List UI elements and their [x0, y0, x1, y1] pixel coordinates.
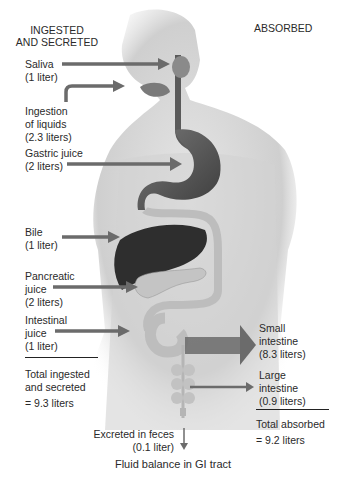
- ingestion-arrow: [66, 80, 125, 102]
- excreted-line2: (0.1 liter): [88, 441, 174, 454]
- label-amount: (1 liter): [25, 239, 58, 252]
- label-name: Saliva: [25, 58, 58, 71]
- label-bile: Bile (1 liter): [25, 226, 58, 252]
- total-absorbed: Total absorbed = 9.2 liters: [256, 418, 325, 447]
- label-name: Bile: [25, 226, 58, 239]
- label-name: Ingestion: [25, 105, 72, 118]
- total-ingested-value: = 9.3 liters: [25, 397, 90, 410]
- label-amount: (2 liters): [25, 160, 83, 173]
- ingested-divider: [25, 357, 98, 358]
- excreted-line1: Excreted in feces: [88, 428, 174, 441]
- label-name-line2: intestine: [259, 382, 306, 395]
- ingested-header: INGESTED AND SECRETED: [12, 24, 102, 48]
- label-amount: (1 liter): [25, 71, 58, 84]
- label-amount: (1 liter): [25, 340, 67, 353]
- label-amount: (8.3 liters): [259, 348, 306, 361]
- excreted-arrow: [180, 428, 188, 450]
- label-pancreatic-juice: Pancreatic juice (2 liters): [25, 270, 75, 309]
- bile-arrow: [62, 231, 120, 243]
- total-ingested-line2: and secreted: [25, 381, 90, 394]
- total-absorbed-line1: Total absorbed: [256, 418, 325, 431]
- label-name: Pancreatic: [25, 270, 75, 283]
- label-ingestion-of-liquids: Ingestion of liquids (2.3 liters): [25, 105, 72, 144]
- label-name-line2: intestine: [259, 335, 306, 348]
- label-large-intestine: Large intestine (0.9 liters): [259, 369, 306, 408]
- label-saliva: Saliva (1 liter): [25, 58, 58, 84]
- figure-caption: Fluid balance in GI tract: [0, 458, 346, 471]
- salivary-gland: [172, 56, 190, 78]
- absorbed-header: ABSORBED: [254, 22, 312, 34]
- label-name-line2: of liquids: [25, 118, 72, 131]
- label-intestinal-juice: Intestinal juice (1 liter): [25, 314, 67, 353]
- label-gastric-juice: Gastric juice (2 liters): [25, 147, 83, 173]
- total-ingested-line1: Total ingested: [25, 368, 90, 381]
- total-ingested: Total ingested and secreted = 9.3 liters: [25, 368, 90, 410]
- ingested-header-line1: INGESTED: [12, 24, 102, 36]
- label-amount: (2.3 liters): [25, 131, 72, 144]
- label-name: Small: [259, 322, 306, 335]
- label-name: Intestinal: [25, 314, 67, 327]
- label-name: Gastric juice: [25, 147, 83, 160]
- label-amount: (2 liters): [25, 296, 75, 309]
- label-name-line2: juice: [25, 327, 67, 340]
- label-small-intestine: Small intestine (8.3 liters): [259, 322, 306, 361]
- label-name-line2: juice: [25, 283, 75, 296]
- ingested-header-line2: AND SECRETED: [12, 36, 102, 48]
- label-amount: (0.9 liters): [259, 395, 306, 408]
- absorbed-divider: [256, 409, 329, 410]
- total-absorbed-value: = 9.2 liters: [256, 434, 325, 447]
- label-name: Large: [259, 369, 306, 382]
- label-excreted: Excreted in feces (0.1 liter): [88, 428, 174, 454]
